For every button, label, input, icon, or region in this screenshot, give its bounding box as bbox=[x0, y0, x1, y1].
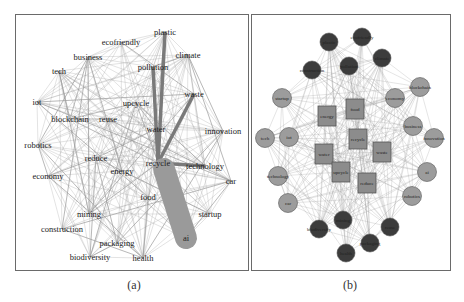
node-label-a: robotics bbox=[24, 140, 51, 150]
node-label-b: blockchain bbox=[409, 85, 431, 90]
caption-b: (b) bbox=[330, 278, 370, 293]
node-label-a: blockchain bbox=[51, 114, 89, 124]
node-label-b: waste bbox=[376, 150, 388, 155]
node-label-b: upcycle bbox=[333, 170, 349, 175]
node-label-b: technology bbox=[267, 174, 290, 179]
node-label-a: car bbox=[226, 176, 237, 186]
node-label-b: energy bbox=[320, 114, 334, 119]
node-label-a: technology bbox=[186, 161, 225, 171]
node-label-a: reuse bbox=[99, 114, 117, 124]
node-label-b: climate bbox=[375, 56, 390, 61]
node-label-b: robotics bbox=[404, 194, 420, 199]
node-label-a: upcycle bbox=[123, 98, 150, 108]
node-label-a: business bbox=[74, 52, 103, 62]
node-label-a: tech bbox=[52, 66, 67, 76]
node-label-a: innovation bbox=[205, 126, 242, 136]
node-label-b: pollution bbox=[340, 64, 359, 69]
node-label-b: construction bbox=[300, 68, 325, 73]
caption-a: (a) bbox=[114, 278, 154, 293]
node-label-a: reduce bbox=[85, 153, 108, 163]
node-label-a: plastic bbox=[154, 27, 176, 37]
node-label-a: energy bbox=[111, 166, 135, 176]
node-label-b: reuse bbox=[385, 225, 396, 230]
node-label-b: business bbox=[405, 124, 422, 129]
node-label-a: recycle bbox=[146, 158, 171, 168]
node-label-a: water bbox=[147, 124, 166, 134]
node-label-b: economy bbox=[386, 96, 405, 101]
node-label-b: iot bbox=[286, 135, 292, 140]
node-label-b: mining bbox=[336, 218, 351, 223]
node-label-b: packaging bbox=[360, 241, 381, 246]
node-label-b: ecofriendly bbox=[351, 35, 374, 40]
node-label-a: food bbox=[140, 192, 156, 202]
node-label-b: biodiversity bbox=[307, 227, 331, 232]
network-graphs: plasticecofriendlybusinessclimatepolluti… bbox=[0, 0, 464, 302]
node-label-b: recycle bbox=[351, 137, 366, 142]
node-label-b: car bbox=[285, 201, 291, 206]
node-label-b: startup bbox=[275, 96, 289, 101]
node-label-a: health bbox=[133, 253, 155, 263]
node-label-a: mining bbox=[77, 209, 102, 219]
node-label-b: health bbox=[340, 251, 353, 256]
node-label-a: economy bbox=[32, 171, 64, 181]
node-label-b: innovation bbox=[423, 136, 445, 141]
node-label-a: climate bbox=[175, 50, 200, 60]
node-label-a: ai bbox=[183, 233, 190, 243]
node-label-b: tech bbox=[261, 136, 270, 141]
node-label-b: ai bbox=[425, 170, 429, 175]
node-label-a: iot bbox=[33, 97, 43, 107]
node-label-b: plastic bbox=[322, 40, 336, 45]
node-label-b: food bbox=[350, 107, 360, 112]
node-label-b: water bbox=[318, 152, 329, 157]
node-label-a: packaging bbox=[100, 238, 136, 248]
node-label-a: biodiversity bbox=[70, 252, 111, 262]
node-label-a: ecofriendly bbox=[102, 37, 141, 47]
node-label-a: pollution bbox=[138, 62, 169, 72]
node-label-b: reduce bbox=[360, 181, 374, 186]
node-label-a: construction bbox=[41, 224, 84, 234]
node-label-a: startup bbox=[198, 209, 221, 219]
node-label-a: waste bbox=[184, 89, 204, 99]
